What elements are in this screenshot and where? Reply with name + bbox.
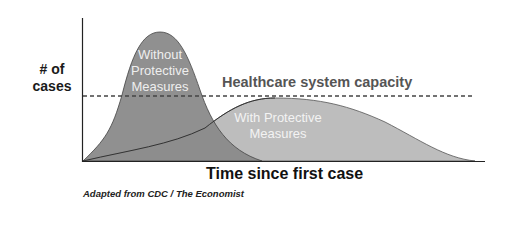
with-measures-label: With Protective Measures bbox=[222, 110, 334, 142]
x-axis-label: Time since first case bbox=[206, 165, 363, 183]
y-axis-label: # of cases bbox=[26, 61, 78, 95]
source-caption: Adapted from CDC / The Economist bbox=[83, 188, 244, 199]
without-label-line3: Measures bbox=[112, 79, 208, 95]
y-axis-label-line1: # of bbox=[26, 61, 78, 78]
with-label-line1: With Protective bbox=[222, 110, 334, 126]
capacity-label: Healthcare system capacity bbox=[222, 74, 412, 90]
without-measures-label: Without Protective Measures bbox=[112, 47, 208, 95]
with-label-line2: Measures bbox=[222, 126, 334, 142]
without-label-line1: Without bbox=[112, 47, 208, 63]
y-axis-label-line2: cases bbox=[26, 78, 78, 95]
without-label-line2: Protective bbox=[112, 63, 208, 79]
